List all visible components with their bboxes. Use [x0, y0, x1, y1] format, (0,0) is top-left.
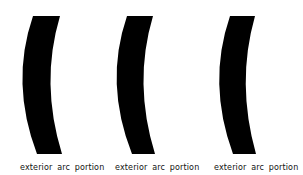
arc-shapes	[0, 0, 303, 175]
arc-diagram-figure: exterior arc portion exterior arc portio…	[0, 0, 303, 175]
arc-caption-1: exterior arc portion	[20, 163, 104, 173]
exterior-arc-shape-1	[22, 16, 62, 154]
arc-caption-2: exterior arc portion	[115, 163, 199, 173]
arc-caption-3: exterior arc portion	[214, 163, 298, 173]
exterior-arc-shape-3	[219, 16, 256, 154]
exterior-arc-shape-2	[117, 16, 155, 154]
